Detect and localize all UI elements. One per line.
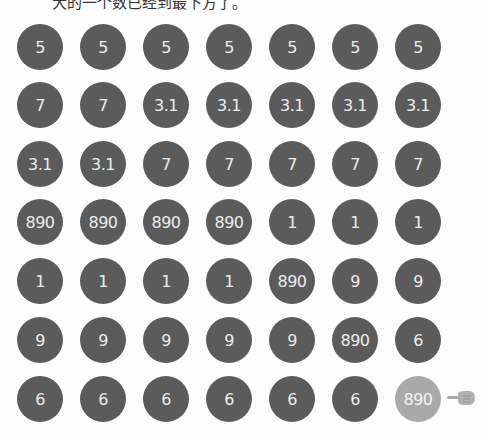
number-ball: 5 (332, 24, 378, 70)
number-ball: 7 (269, 141, 315, 187)
number-ball: 890 (206, 199, 252, 245)
number-ball: 6 (269, 376, 315, 422)
number-ball: 6 (332, 376, 378, 422)
number-ball: 1 (17, 258, 63, 304)
number-ball: 890 (143, 199, 189, 245)
number-ball: 3.1 (80, 141, 126, 187)
number-ball: 7 (206, 141, 252, 187)
number-ball: 9 (269, 317, 315, 363)
number-grid: 5 5 5 5 5 5 5 7 7 3.1 3.1 3.1 3.1 3.1 3.… (0, 0, 488, 437)
number-ball: 1 (143, 258, 189, 304)
number-ball: 890 (80, 199, 126, 245)
number-ball: 3.1 (17, 141, 63, 187)
number-ball: 3.1 (143, 82, 189, 128)
number-ball: 6 (80, 376, 126, 422)
number-ball: 3.1 (332, 82, 378, 128)
number-ball: 7 (332, 141, 378, 187)
number-ball: 7 (17, 82, 63, 128)
number-ball: 1 (332, 199, 378, 245)
number-ball: 5 (143, 24, 189, 70)
number-ball: 6 (206, 376, 252, 422)
number-ball: 5 (206, 24, 252, 70)
number-ball: 5 (395, 24, 441, 70)
number-ball: 890 (269, 258, 315, 304)
highlighted-number-ball: 890 (395, 376, 441, 422)
number-ball: 7 (143, 141, 189, 187)
number-ball: 890 (17, 199, 63, 245)
number-ball: 3.1 (269, 82, 315, 128)
number-ball: 3.1 (395, 82, 441, 128)
number-ball: 9 (80, 317, 126, 363)
number-ball: 6 (395, 317, 441, 363)
number-ball: 3.1 (206, 82, 252, 128)
pointing-hand-icon (446, 388, 476, 408)
number-ball: 1 (395, 199, 441, 245)
number-ball: 5 (80, 24, 126, 70)
number-ball: 6 (17, 376, 63, 422)
number-ball: 7 (395, 141, 441, 187)
number-ball: 890 (332, 317, 378, 363)
number-ball: 9 (206, 317, 252, 363)
number-ball: 7 (80, 82, 126, 128)
number-ball: 9 (395, 258, 441, 304)
number-ball: 6 (143, 376, 189, 422)
number-ball: 1 (269, 199, 315, 245)
number-ball: 5 (17, 24, 63, 70)
number-ball: 5 (269, 24, 315, 70)
number-ball: 1 (206, 258, 252, 304)
number-ball: 9 (17, 317, 63, 363)
number-ball: 9 (143, 317, 189, 363)
number-ball: 9 (332, 258, 378, 304)
number-ball: 1 (80, 258, 126, 304)
